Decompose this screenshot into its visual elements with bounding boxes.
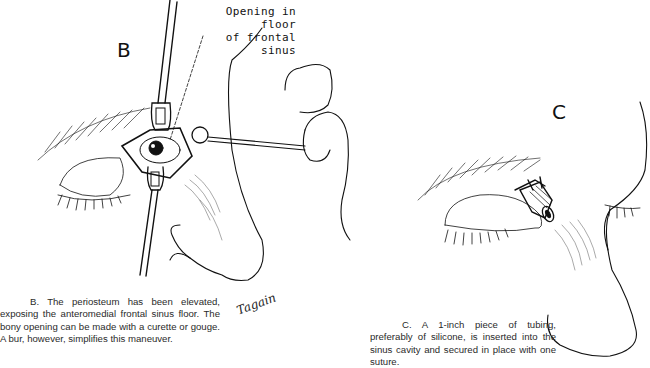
callout-line-1: Opening in floor [190, 5, 296, 31]
caption-b-text: B. The periosteum has been elevated, exp… [0, 296, 220, 345]
panel-c-label: C [552, 100, 566, 124]
shading-c [555, 220, 596, 270]
caption-panel-c: C. A 1-inch piece of tubing, preferably … [370, 319, 556, 368]
callout-opening: Opening in floor of frontal sinus [190, 5, 296, 57]
panel-b-label: B [117, 38, 131, 62]
suture [515, 177, 545, 190]
caption-c-text: C. A 1-inch piece of tubing, preferably … [370, 319, 556, 368]
eyelashes-right [605, 205, 640, 218]
nose-c [548, 102, 647, 356]
caption-panel-b: B. The periosteum has been elevated, exp… [0, 296, 220, 345]
callout-line-2: of frontal sinus [190, 31, 296, 57]
